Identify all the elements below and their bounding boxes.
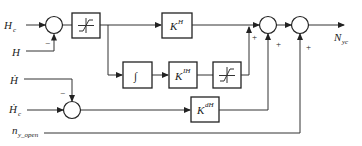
summing-junction-4 bbox=[64, 102, 81, 119]
gain-block-kh: K H bbox=[162, 13, 192, 38]
wire-sat2-sum2 bbox=[241, 27, 249, 75]
svg-text:H: H bbox=[11, 46, 21, 58]
input-ny-open-label: n y_open bbox=[12, 124, 39, 139]
svg-text:H: H bbox=[177, 18, 184, 26]
saturation-block-1 bbox=[72, 13, 100, 38]
svg-text:IH: IH bbox=[182, 67, 191, 75]
svg-text:y_open: y_open bbox=[17, 131, 39, 139]
sign-plus-kdh: + bbox=[276, 39, 281, 49]
input-hc-label: H c bbox=[3, 19, 17, 34]
summing-junction-2 bbox=[260, 17, 277, 34]
input-h-label: H bbox=[11, 46, 21, 58]
svg-text:Ḣ: Ḣ bbox=[9, 74, 19, 86]
svg-text:K: K bbox=[169, 20, 178, 32]
saturation-block-2 bbox=[213, 62, 241, 88]
sign-minus-h: − bbox=[45, 38, 50, 48]
output-nyc-label: N yc bbox=[333, 31, 349, 46]
sign-minus-hdot: − bbox=[60, 88, 65, 98]
input-hcdot-label: Ḣ c bbox=[8, 103, 22, 118]
svg-text:dH: dH bbox=[205, 101, 215, 109]
summing-junction-3 bbox=[292, 17, 309, 34]
summing-junction-1 bbox=[46, 17, 63, 34]
integrator-block: ∫ bbox=[123, 62, 152, 88]
svg-text:N: N bbox=[333, 31, 342, 43]
gain-block-kdh: K dH bbox=[191, 97, 219, 122]
input-hdot-label: Ḣ bbox=[9, 74, 19, 86]
gain-block-kih: K IH bbox=[169, 62, 197, 88]
svg-text:c: c bbox=[18, 110, 22, 118]
wire-branch-integrator bbox=[108, 25, 122, 75]
svg-text:Ḣ: Ḣ bbox=[8, 103, 18, 115]
block-diagram: H c H Ḣ Ḣ c n y_open − K H ∫ bbox=[0, 0, 362, 146]
sign-plus-integral: + bbox=[252, 32, 257, 42]
svg-text:K: K bbox=[174, 70, 183, 82]
svg-text:c: c bbox=[13, 26, 17, 34]
sign-plus-ny: + bbox=[306, 42, 311, 52]
svg-text:yc: yc bbox=[341, 38, 349, 46]
svg-text:K: K bbox=[196, 104, 205, 116]
svg-text:H: H bbox=[3, 19, 13, 31]
